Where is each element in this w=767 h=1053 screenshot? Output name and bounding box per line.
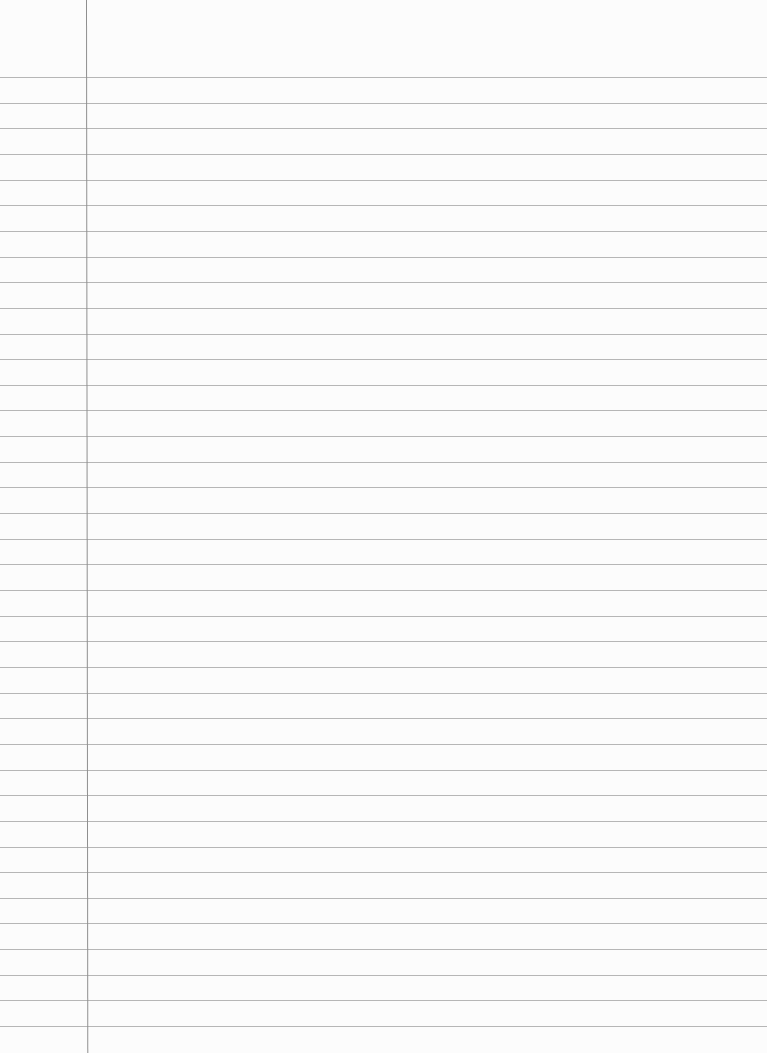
ruled-line <box>0 949 767 950</box>
ruled-line <box>0 1000 767 1001</box>
ruled-line <box>0 590 767 591</box>
ruled-line <box>0 795 767 796</box>
margin-line <box>86 0 88 1053</box>
ruled-line <box>0 385 767 386</box>
ruled-line <box>0 821 767 822</box>
ruled-line <box>0 334 767 335</box>
ruled-line <box>0 667 767 668</box>
ruled-line <box>0 282 767 283</box>
ruled-line <box>0 693 767 694</box>
ruled-line <box>0 641 767 642</box>
ruled-line <box>0 616 767 617</box>
ruled-line <box>0 308 767 309</box>
ruled-line <box>0 770 767 771</box>
ruled-line <box>0 410 767 411</box>
ruled-line <box>0 1026 767 1027</box>
ruled-line <box>0 128 767 129</box>
ruled-line <box>0 898 767 899</box>
ruled-paper-sheet <box>0 0 767 1053</box>
ruled-line <box>0 154 767 155</box>
ruled-line <box>0 77 767 78</box>
ruled-line <box>0 180 767 181</box>
ruled-line <box>0 462 767 463</box>
ruled-line <box>0 257 767 258</box>
ruled-line <box>0 103 767 104</box>
ruled-line <box>0 205 767 206</box>
ruled-line <box>0 847 767 848</box>
ruled-line <box>0 231 767 232</box>
ruled-line <box>0 923 767 924</box>
ruled-line <box>0 436 767 437</box>
ruled-line <box>0 564 767 565</box>
ruled-line <box>0 513 767 514</box>
ruled-line <box>0 539 767 540</box>
ruled-line <box>0 872 767 873</box>
ruled-line <box>0 975 767 976</box>
ruled-line <box>0 487 767 488</box>
ruled-line <box>0 359 767 360</box>
ruled-line <box>0 718 767 719</box>
ruled-line <box>0 744 767 745</box>
